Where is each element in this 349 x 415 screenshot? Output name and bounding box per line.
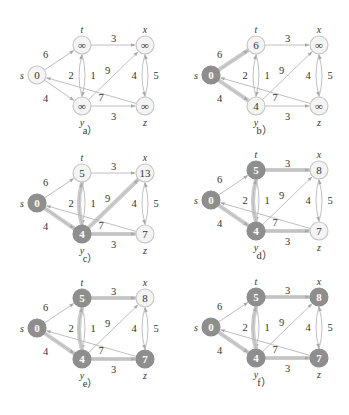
edge-s-t <box>44 179 73 198</box>
edge-weight-y-x: 9 <box>279 190 284 201</box>
edge-s-t <box>218 176 247 195</box>
node-label-z: z <box>142 370 147 381</box>
edge-weight-z-x: 5 <box>153 70 158 81</box>
edge-z-x <box>319 307 322 349</box>
panel-e: 64321934570s5t8x4y7ze） <box>20 277 159 389</box>
node-label-z: z <box>316 242 321 253</box>
edge-s-t <box>218 51 247 70</box>
node-value-x: ∞ <box>315 39 323 51</box>
node-label-s: s <box>20 70 24 81</box>
edge-x-z <box>316 306 319 348</box>
edge-weight-y-x: 9 <box>279 317 284 328</box>
edge-x-z <box>142 307 145 349</box>
panel-caption-b: b） <box>256 125 271 136</box>
edge-weight-y-t: 1 <box>90 198 95 209</box>
panel-caption-d: d） <box>256 250 271 261</box>
node-label-z: z <box>316 117 321 128</box>
node-value-x: ∞ <box>141 39 149 51</box>
edge-weight-s-t: 6 <box>217 49 222 60</box>
edge-x-z <box>142 54 145 96</box>
edge-weight-t-x: 3 <box>285 158 290 169</box>
edge-x-z <box>316 179 319 221</box>
edge-z-x <box>319 180 322 222</box>
graph-diagram: 64321934570s∞t∞x∞y∞za）64321934570s6t∞x4y… <box>0 0 349 415</box>
node-value-s: 0 <box>34 69 40 81</box>
node-value-y: ∞ <box>78 100 86 112</box>
edge-weight-t-y: 2 <box>68 198 73 209</box>
edge-weight-y-z: 3 <box>111 111 116 122</box>
edge-weight-s-y: 4 <box>43 346 49 357</box>
edge-weight-y-t: 1 <box>264 322 269 333</box>
edge-weight-t-y: 2 <box>242 70 247 81</box>
edge-weight-y-t: 1 <box>90 323 95 334</box>
node-value-s: 0 <box>34 322 40 334</box>
edge-weight-x-z: 4 <box>305 195 311 206</box>
node-label-s: s <box>20 198 24 209</box>
node-value-x: 8 <box>142 292 148 304</box>
edge-weight-y-x: 9 <box>105 65 110 76</box>
node-label-t: t <box>255 149 258 160</box>
node-value-s: 0 <box>34 197 40 209</box>
edge-t-y <box>256 54 259 96</box>
edge-x-z <box>142 182 145 224</box>
edge-weight-y-t: 1 <box>264 195 269 206</box>
edge-s-t <box>44 304 73 323</box>
edge-s-y <box>44 208 73 228</box>
edge-z-x <box>145 308 148 350</box>
edge-weight-z-s: 7 <box>272 344 277 355</box>
node-value-t: 5 <box>253 164 259 176</box>
panel-caption-f: f） <box>257 377 271 388</box>
panel-caption-a: a） <box>83 125 98 136</box>
edge-weight-s-y: 4 <box>217 218 223 229</box>
node-label-s: s <box>194 195 198 206</box>
node-value-s: 0 <box>208 194 214 206</box>
node-value-t: 5 <box>79 292 85 304</box>
edge-s-y <box>218 332 247 352</box>
edge-s-t <box>218 303 247 322</box>
node-value-s: 0 <box>208 321 214 333</box>
edge-weight-z-x: 5 <box>327 70 332 81</box>
node-label-z: z <box>316 369 321 380</box>
edge-weight-z-x: 5 <box>153 198 158 209</box>
edge-weight-t-x: 3 <box>285 285 290 296</box>
edge-z-x <box>145 183 148 225</box>
edge-weight-t-y: 2 <box>242 322 247 333</box>
edge-weight-y-x: 9 <box>105 318 110 329</box>
edge-s-y <box>218 205 247 225</box>
node-label-t: t <box>81 24 84 35</box>
node-label-s: s <box>194 70 198 81</box>
panel-d: 64321934570s5t8x4y7zd） <box>194 149 333 261</box>
edge-weight-y-t: 1 <box>264 70 269 81</box>
node-value-z: ∞ <box>315 100 323 112</box>
edge-weight-y-z: 3 <box>285 111 290 122</box>
edge-weight-s-y: 4 <box>43 221 49 232</box>
node-value-y: 4 <box>79 353 85 365</box>
node-label-x: x <box>316 24 322 35</box>
edge-weight-z-s: 7 <box>98 92 103 103</box>
edge-y-t <box>253 55 256 97</box>
edge-t-y <box>82 54 85 96</box>
panel-f: 64321934570s5t8x4y7zf） <box>194 276 333 388</box>
node-label-z: z <box>142 245 147 256</box>
node-value-z: 7 <box>316 352 322 364</box>
edge-weight-y-x: 9 <box>105 193 110 204</box>
node-value-z: 7 <box>142 228 148 240</box>
node-label-t: t <box>255 24 258 35</box>
node-value-x: 13 <box>140 167 152 179</box>
panel-b: 64321934570s6t∞x4y∞zb） <box>194 24 333 136</box>
node-label-x: x <box>316 276 322 287</box>
panel-c: 64321934570s5t13x4y7zc） <box>20 152 159 264</box>
edge-s-y <box>218 80 247 100</box>
edge-weight-t-y: 2 <box>68 323 73 334</box>
edge-weight-y-x: 9 <box>279 65 284 76</box>
edge-weight-y-t: 1 <box>90 70 95 81</box>
node-value-z: 7 <box>142 353 148 365</box>
edge-weight-y-z: 3 <box>285 236 290 247</box>
edge-weight-s-t: 6 <box>43 302 48 313</box>
edge-z-x <box>319 55 322 97</box>
node-value-t: ∞ <box>78 39 86 51</box>
edge-weight-x-z: 4 <box>305 322 311 333</box>
edge-weight-s-t: 6 <box>217 174 222 185</box>
edge-y-t <box>79 55 82 97</box>
node-label-t: t <box>81 277 84 288</box>
